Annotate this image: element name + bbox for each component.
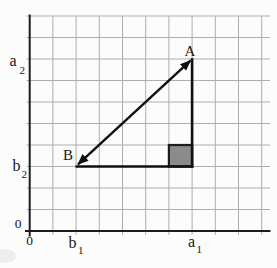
y-axis-origin-label: 0 xyxy=(15,216,22,231)
x-axis-b1-label: b xyxy=(69,234,77,251)
page-background xyxy=(0,0,277,268)
distance-between-points-diagram: A B a 2 b 2 0 0 b 1 a 1 xyxy=(0,0,277,268)
y-axis-a2-subscript: 2 xyxy=(20,64,26,76)
x-axis-a1-subscript: 1 xyxy=(197,243,203,255)
x-axis-b1-subscript: 1 xyxy=(78,244,84,256)
y-axis-b2-label: b xyxy=(13,157,21,174)
y-axis-b2-subscript: 2 xyxy=(22,168,28,180)
right-angle-square xyxy=(169,145,192,167)
x-axis-a1-label: a xyxy=(188,233,195,250)
x-axis-origin-label: 0 xyxy=(26,233,33,248)
y-axis-a2-label: a xyxy=(10,52,17,69)
point-b-label: B xyxy=(63,147,73,163)
point-a-label: A xyxy=(185,43,196,59)
diagram-canvas: A B a 2 b 2 0 0 b 1 a 1 xyxy=(0,0,277,268)
